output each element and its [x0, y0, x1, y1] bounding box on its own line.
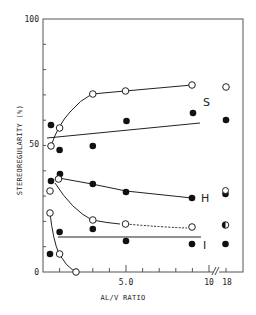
half-filled-point: [222, 222, 229, 229]
plot-frame: [43, 19, 243, 272]
y-tick-0: 0: [34, 268, 39, 277]
axis-break-icon: [212, 267, 219, 275]
curve-s-filled: [47, 123, 200, 138]
y-axis-label: STEREOREGULARITY (%): [16, 105, 24, 195]
open-points: [47, 82, 230, 276]
series-label-h: H: [201, 192, 209, 205]
y-tick-50: 50: [29, 140, 39, 149]
curve-h-open-dashed: [126, 224, 187, 228]
x-axis-label: AL/V RATIO: [100, 294, 145, 302]
curve-i-open: [50, 213, 75, 272]
x-ticks: [60, 265, 226, 272]
series-label-s: S: [203, 96, 210, 109]
series-label-i: I: [203, 239, 206, 252]
y-tick-100: 100: [25, 15, 40, 24]
filled-points: [47, 110, 230, 258]
stereoregularity-chart: 100 50 0 5.0 10 18 AL/V RATIO STEREOREGU…: [0, 0, 256, 315]
curve-s-open: [51, 85, 192, 146]
x-tick-5: 5.0: [119, 278, 134, 287]
curve-h-open: [55, 183, 120, 224]
x-tick-18: 18: [222, 278, 232, 287]
x-tick-10: 10: [204, 278, 214, 287]
curves: [47, 85, 201, 272]
